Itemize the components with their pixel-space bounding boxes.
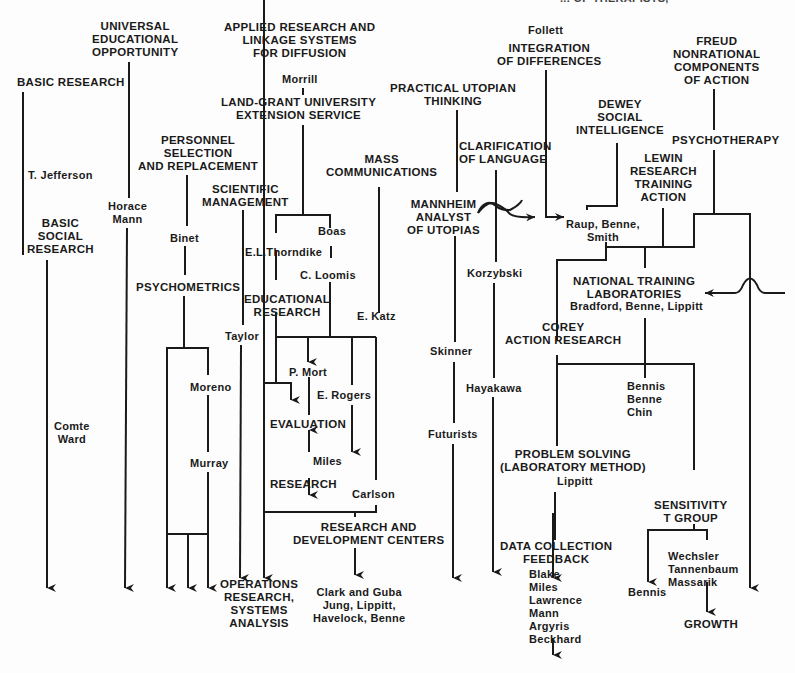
- node-clarification-language: CLARIFICATION OF LANGUAGE: [459, 140, 551, 166]
- node-futurists: Futurists: [428, 428, 478, 441]
- node-taylor: Taylor: [225, 330, 259, 343]
- node-c-loomis: C. Loomis: [300, 269, 356, 282]
- node-ntl: NATIONAL TRAINING LABORATORIES: [573, 275, 695, 301]
- node-applied-research: APPLIED RESEARCH AND LINKAGE SYSTEMS FOR…: [224, 21, 375, 60]
- node-wechsler-group: Wechsler Tannenbaum Massarik: [668, 550, 739, 589]
- node-practical-utopian: PRACTICAL UTOPIAN THINKING: [390, 82, 516, 108]
- node-boas: Boas: [318, 225, 346, 238]
- node-sensitivity-t-group: SENSITIVITY T GROUP: [654, 499, 728, 525]
- header-cut-text: ... OF THERAPISTS,: [560, 0, 669, 5]
- node-scientific-management: SCIENTIFIC MANAGEMENT: [202, 183, 289, 209]
- node-t-jefferson: T. Jefferson: [28, 169, 93, 182]
- node-lewin: Lewin RESEARCH TRAINING ACTION: [630, 152, 697, 204]
- node-mass-communications: MASS COMMUNICATIONS: [326, 153, 437, 179]
- node-hayakawa: Hayakawa: [466, 382, 522, 395]
- node-problem-solving: PROBLEM SOLVING (LABORATORY METHOD): [500, 448, 646, 474]
- node-follett: Follett: [528, 24, 563, 37]
- node-lippitt: Lippitt: [557, 475, 593, 488]
- node-basic-social-research: BASIC SOCIAL RESEARCH: [27, 217, 94, 256]
- node-growth: GROWTH: [684, 618, 738, 631]
- node-evaluation: EVALUATION: [270, 418, 346, 431]
- node-binet: Binet: [170, 232, 199, 245]
- node-raup-benne-smith: Raup, Benne, Smith: [566, 218, 640, 244]
- node-operations-research: OPERATIONS RESEARCH, SYSTEMS ANALYSIS: [220, 578, 298, 630]
- node-moreno: Moreno: [190, 381, 232, 394]
- node-p-mort: P. Mort: [289, 366, 327, 379]
- node-dewey-social-intelligence: Dewey SOCIAL INTELLIGENCE: [576, 98, 664, 137]
- node-murray: Murray: [190, 457, 228, 470]
- node-mannheim: Mannheim ANALYST OF UTOPIAS: [407, 198, 480, 237]
- node-integration-differences: INTEGRATION OF DIFFERENCES: [497, 42, 602, 68]
- node-ntl-people: Bradford, Benne, Lippitt: [570, 300, 703, 313]
- node-korzybski: Korzybski: [467, 267, 522, 280]
- node-universal-education: UNIVERSAL EDUCATIONAL OPPORTUNITY: [92, 20, 178, 59]
- node-bennis-benne-chin: Bennis Benne Chin: [627, 380, 665, 419]
- node-e-katz: E. Katz: [357, 310, 396, 323]
- node-e-rogers: E. Rogers: [317, 389, 371, 402]
- node-morrill: Morrill: [282, 73, 318, 86]
- node-carlson: Carlson: [352, 488, 395, 501]
- node-bennis: Bennis: [628, 586, 666, 599]
- node-educational-research: EDUCATIONAL RESEARCH: [244, 293, 330, 319]
- node-freud: Freud NONRATIONAL COMPONENTS OF ACTION: [673, 35, 760, 87]
- node-psychotherapy: PSYCHOTHERAPY: [672, 134, 779, 147]
- node-basic-research: BASIC RESEARCH: [17, 76, 125, 89]
- node-rd-centers: RESEARCH AND DEVELOPMENT CENTERS: [293, 521, 444, 547]
- node-corey-action-research: Corey ACTION RESEARCH: [505, 321, 621, 347]
- node-personnel-selection: PERSONNEL SELECTION AND REPLACEMENT: [138, 134, 258, 173]
- node-research: RESEARCH: [270, 478, 337, 491]
- node-data-collection: DATA COLLECTION FEEDBACK: [500, 540, 612, 566]
- node-thorndike: E.L.Thorndike: [245, 246, 322, 259]
- node-horace-mann: Horace Mann: [108, 200, 147, 226]
- node-data-people: Blake Miles Lawrence Mann Argyris Beckha…: [529, 568, 582, 646]
- node-psychometrics: PSYCHOMETRICS: [136, 281, 240, 294]
- diagram-canvas: ... OF THERAPISTS, BASIC RESEARCH T. Jef…: [0, 0, 795, 673]
- node-skinner: Skinner: [430, 345, 472, 358]
- node-miles: Miles: [313, 455, 342, 468]
- node-comte-ward: Comte Ward: [54, 420, 90, 446]
- node-clark-guba: Clark and Guba Jung, Lippitt, Havelock, …: [313, 586, 406, 625]
- node-land-grant: LAND-GRANT UNIVERSITY EXTENSION SERVICE: [221, 96, 376, 122]
